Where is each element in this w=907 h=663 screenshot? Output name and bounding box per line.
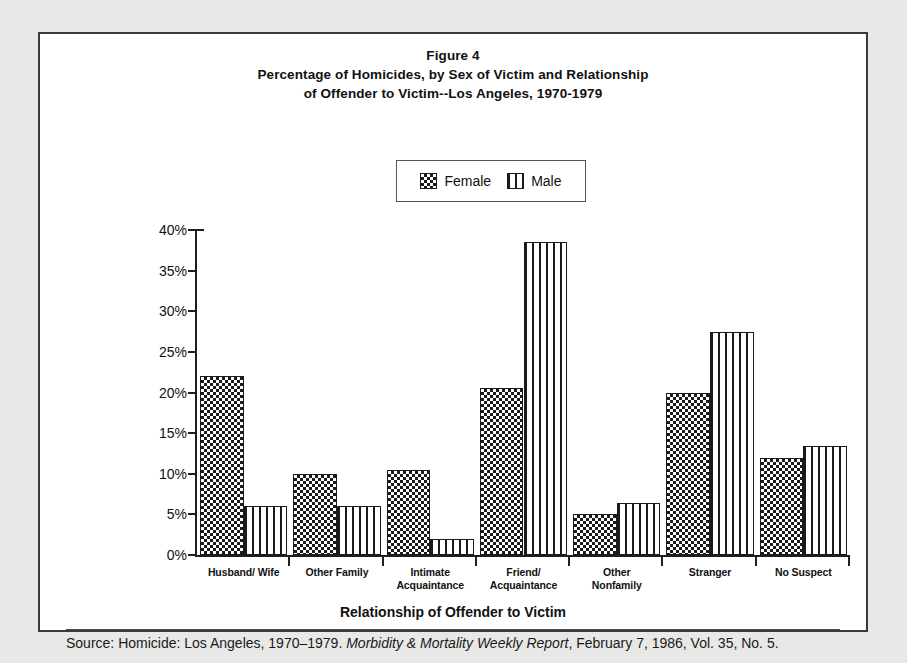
x-axis-category-labels: Husband/ WifeOther FamilyIntimateAcquain…	[197, 566, 850, 602]
source-divider	[66, 629, 840, 630]
x-category-label-line: Other	[564, 566, 669, 579]
vertical-stripe-swatch-icon	[507, 173, 524, 189]
x-category-label: No Suspect	[751, 566, 856, 579]
y-tick-mark	[188, 554, 197, 556]
x-axis-group-tick	[568, 557, 570, 566]
figure-frame: Figure 4 Percentage of Homicides, by Sex…	[38, 32, 868, 632]
y-tick-label: 20%	[159, 386, 187, 400]
chart-legend: Female Male	[396, 160, 586, 202]
title-line-2: Percentage of Homicides, by Sex of Victi…	[40, 65, 866, 84]
x-category-label-line: No Suspect	[751, 566, 856, 579]
x-category-label: OtherNonfamily	[564, 566, 669, 592]
y-tick-mark	[188, 270, 197, 272]
y-tick-mark	[188, 513, 197, 515]
bar-male	[710, 332, 754, 555]
source-note: Source: Homicide: Los Angeles, 1970–1979…	[66, 634, 856, 653]
y-tick-label: 10%	[159, 467, 187, 481]
x-category-label-line: Friend/	[471, 566, 576, 579]
x-axis-group-tick	[661, 557, 663, 566]
legend-label-male: Male	[531, 173, 561, 189]
legend-item-female: Female	[420, 173, 491, 189]
source-publication: Morbidity & Mortality Weekly Report	[346, 635, 568, 651]
x-category-label: Friend/Acquaintance	[471, 566, 576, 592]
x-category-label-line: Stranger	[657, 566, 762, 579]
bar-male	[337, 506, 381, 555]
y-axis-tick-labels: 0%5%10%15%20%25%30%35%40%	[137, 230, 187, 556]
bar-male	[617, 503, 661, 555]
bar-female	[573, 514, 617, 555]
legend-item-male: Male	[507, 173, 561, 189]
legend-label-female: Female	[444, 173, 491, 189]
title-line-1: Figure 4	[40, 46, 866, 65]
y-tick-mark	[188, 432, 197, 434]
plot-area: 0%5%10%15%20%25%30%35%40%	[195, 230, 850, 555]
bar-male	[803, 446, 847, 555]
y-tick-label: 15%	[159, 426, 187, 440]
source-suffix: , February 7, 1986, Vol. 35, No. 5.	[568, 635, 778, 651]
checkerboard-swatch-icon	[420, 173, 437, 189]
bar-female	[293, 474, 337, 555]
x-category-label-line: Other Family	[284, 566, 389, 579]
source-prefix: Source: Homicide: Los Angeles, 1970–1979…	[66, 635, 346, 651]
y-tick-mark	[188, 392, 197, 394]
x-category-label-line: Acquaintance	[471, 579, 576, 592]
x-category-label-line: Intimate	[378, 566, 483, 579]
x-category-label: Other Family	[284, 566, 389, 579]
bar-male	[430, 539, 474, 555]
x-axis-end-tick	[848, 557, 850, 566]
bar-female	[480, 388, 524, 555]
x-category-label: Stranger	[657, 566, 762, 579]
x-axis-group-tick	[475, 557, 477, 566]
x-axis-title: Relationship of Offender to Victim	[40, 604, 866, 620]
bar-female	[387, 470, 431, 555]
x-category-label-line: Acquaintance	[378, 579, 483, 592]
bar-male	[244, 506, 288, 555]
y-tick-label: 0%	[167, 548, 187, 562]
y-tick-mark	[188, 351, 197, 353]
x-axis-group-tick	[288, 557, 290, 566]
x-category-label-line: Nonfamily	[564, 579, 669, 592]
title-line-3: of Offender to Victim--Los Angeles, 1970…	[40, 84, 866, 103]
x-category-label: Husband/ Wife	[191, 566, 296, 579]
page-canvas: Figure 4 Percentage of Homicides, by Sex…	[0, 0, 907, 663]
bar-series-container	[197, 230, 850, 556]
figure-title: Figure 4 Percentage of Homicides, by Sex…	[40, 46, 866, 103]
bar-female	[200, 376, 244, 555]
y-tick-label: 35%	[159, 264, 187, 278]
y-tick-label: 25%	[159, 345, 187, 359]
bar-female	[666, 393, 710, 556]
x-category-label-line: Husband/ Wife	[191, 566, 296, 579]
x-axis-group-tick	[382, 557, 384, 566]
y-tick-mark	[188, 473, 197, 475]
y-tick-label: 40%	[159, 223, 187, 237]
x-category-label: IntimateAcquaintance	[378, 566, 483, 592]
bar-female	[760, 458, 804, 556]
y-tick-mark	[188, 310, 197, 312]
bar-male	[524, 242, 568, 555]
y-tick-label: 30%	[159, 304, 187, 318]
x-axis-group-tick	[755, 557, 757, 566]
y-tick-label: 5%	[167, 507, 187, 521]
